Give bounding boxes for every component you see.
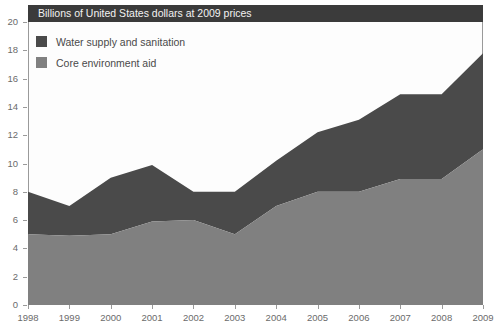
y-axis-tick-mark bbox=[23, 135, 27, 136]
x-axis-tick-mark bbox=[400, 305, 401, 309]
chart-legend: Water supply and sanitationCore environm… bbox=[36, 33, 185, 75]
y-axis-tick-mark bbox=[23, 22, 27, 23]
y-axis-tick-label: 6 bbox=[13, 215, 18, 225]
x-axis-tick-mark bbox=[111, 305, 112, 309]
x-axis: 1998199920002001200220032004200520062007… bbox=[0, 308, 489, 328]
legend-swatch-icon bbox=[36, 36, 47, 47]
x-axis-tick-label: 2002 bbox=[183, 312, 204, 323]
x-axis-tick-label: 2004 bbox=[266, 312, 287, 323]
y-axis-tick-mark bbox=[23, 50, 27, 51]
y-axis-tick-label: 4 bbox=[13, 243, 18, 253]
cut-off-title bbox=[150, 0, 330, 3]
legend-swatch-icon bbox=[36, 57, 47, 68]
y-axis-tick-label: 12 bbox=[7, 130, 18, 140]
y-axis-tick-mark bbox=[23, 107, 27, 108]
y-axis-tick-mark bbox=[23, 164, 27, 165]
y-axis-tick-mark bbox=[23, 277, 27, 278]
y-axis-tick-mark bbox=[23, 220, 27, 221]
x-axis-tick-mark bbox=[276, 305, 277, 309]
x-axis-tick-label: 2006 bbox=[348, 312, 369, 323]
y-axis-tick-mark bbox=[23, 305, 27, 306]
legend-label: Water supply and sanitation bbox=[56, 36, 185, 48]
x-axis-tick-label: 2001 bbox=[142, 312, 163, 323]
x-axis-tick-label: 2000 bbox=[100, 312, 121, 323]
y-axis-tick-mark bbox=[23, 79, 27, 80]
x-axis-tick-label: 2005 bbox=[307, 312, 328, 323]
y-axis-tick-label: 18 bbox=[7, 45, 18, 55]
x-axis-tick-label: 1998 bbox=[17, 312, 38, 323]
y-axis-tick-label: 10 bbox=[7, 159, 18, 169]
y-axis-tick-label: 20 bbox=[7, 17, 18, 27]
x-axis-tick-label: 2003 bbox=[224, 312, 245, 323]
subtitle-text: Billions of United States dollars at 200… bbox=[38, 8, 252, 19]
x-axis-tick-mark bbox=[193, 305, 194, 309]
x-axis-tick-mark bbox=[318, 305, 319, 309]
x-axis-tick-label: 2009 bbox=[472, 312, 493, 323]
y-axis: 02468101214161820 bbox=[0, 0, 26, 330]
y-axis-tick-label: 16 bbox=[7, 74, 18, 84]
x-axis-tick-mark bbox=[69, 305, 70, 309]
x-axis-tick-mark bbox=[483, 305, 484, 309]
legend-item: Core environment aid bbox=[36, 54, 185, 71]
y-axis-tick-label: 2 bbox=[13, 272, 18, 282]
x-axis-tick-mark bbox=[359, 305, 360, 309]
x-axis-tick-label: 2008 bbox=[431, 312, 452, 323]
y-axis-tick-label: 8 bbox=[13, 187, 18, 197]
y-axis-tick-mark bbox=[23, 192, 27, 193]
x-axis-tick-mark bbox=[28, 305, 29, 309]
legend-label: Core environment aid bbox=[56, 57, 156, 69]
legend-item: Water supply and sanitation bbox=[36, 33, 185, 50]
x-axis-tick-mark bbox=[442, 305, 443, 309]
y-axis-tick-mark bbox=[23, 248, 27, 249]
subtitle-band: Billions of United States dollars at 200… bbox=[28, 5, 483, 22]
y-axis-tick-label: 14 bbox=[7, 102, 18, 112]
x-axis-tick-mark bbox=[152, 305, 153, 309]
x-axis-tick-label: 1999 bbox=[59, 312, 80, 323]
x-axis-tick-mark bbox=[235, 305, 236, 309]
x-axis-tick-label: 2007 bbox=[390, 312, 411, 323]
